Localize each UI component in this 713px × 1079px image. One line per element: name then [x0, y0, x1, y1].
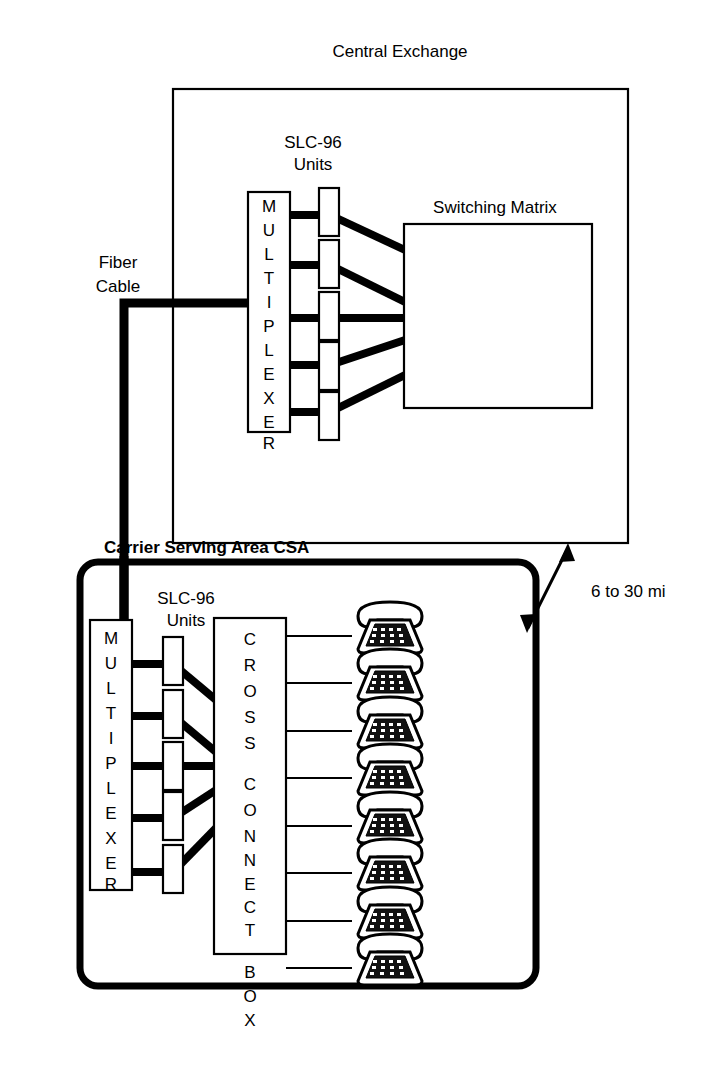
slc96-unit: [163, 792, 183, 840]
csa-box: [80, 562, 536, 986]
slc96-unit: [163, 690, 183, 738]
telephone-set: [358, 602, 422, 985]
central-slc96-units: [319, 188, 339, 440]
switching-matrix-box: [404, 224, 592, 408]
slc96-unit: [163, 637, 183, 685]
switching-matrix-label: Switching Matrix: [433, 198, 557, 217]
csa-slc96-label-line2: Units: [167, 611, 206, 630]
svg-text:C: C: [244, 630, 256, 649]
svg-text:B: B: [244, 963, 255, 982]
central-slc96-label-line2: Units: [294, 155, 333, 174]
svg-text:C: C: [244, 898, 256, 917]
svg-text:R: R: [105, 875, 117, 894]
svg-text:O: O: [243, 682, 256, 701]
csa-slc96-label-line1: SLC-96: [157, 589, 215, 608]
distance-label: 6 to 30 mi: [591, 582, 666, 601]
slc96-unit: [319, 392, 339, 440]
cross-connect-box-label: C R O S S C O N N E C T B O X: [243, 630, 256, 1030]
svg-text:T: T: [245, 921, 255, 940]
svg-text:R: R: [263, 434, 275, 453]
svg-text:X: X: [263, 389, 274, 408]
svg-text:L: L: [264, 245, 273, 264]
telephone-icon: [358, 839, 422, 890]
svg-text:T: T: [264, 269, 274, 288]
telephone-icon: [358, 934, 422, 985]
slc96-unit: [319, 292, 339, 340]
fiber-cable-label-line2: Cable: [96, 277, 140, 296]
slc96-unit: [319, 240, 339, 288]
svg-text:P: P: [263, 317, 274, 336]
telephone-icon: [358, 887, 422, 938]
telephone-icon: [358, 792, 422, 843]
svg-text:U: U: [263, 221, 275, 240]
svg-text:E: E: [263, 413, 274, 432]
subscriber-lines: [286, 636, 352, 968]
svg-text:E: E: [244, 875, 255, 894]
svg-text:T: T: [106, 704, 116, 723]
slc96-unit: [319, 188, 339, 236]
svg-text:E: E: [105, 854, 116, 873]
central-exchange-title: Central Exchange: [332, 42, 467, 61]
svg-text:R: R: [244, 656, 256, 675]
svg-text:E: E: [105, 804, 116, 823]
svg-text:X: X: [244, 1011, 255, 1030]
slc96-unit: [163, 742, 183, 790]
telephone-icon: [358, 602, 422, 653]
csa-mux-to-slc-bars: [130, 664, 166, 872]
network-diagram: Central Exchange SLC-96 Units Switching …: [0, 0, 713, 1079]
svg-text:C: C: [244, 775, 256, 794]
csa-multiplexer-label: M U L T I P L E X E R: [104, 629, 118, 894]
slc96-unit: [163, 845, 183, 893]
svg-text:S: S: [244, 734, 255, 753]
svg-text:L: L: [106, 679, 115, 698]
svg-text:X: X: [105, 829, 116, 848]
telephone-icon: [358, 744, 422, 795]
svg-text:S: S: [244, 708, 255, 727]
svg-text:N: N: [244, 827, 256, 846]
svg-text:E: E: [263, 365, 274, 384]
svg-text:U: U: [105, 654, 117, 673]
central-multiplexer-label: M U L T I P L E X E R: [262, 197, 276, 453]
svg-text:L: L: [264, 341, 273, 360]
svg-text:I: I: [109, 729, 114, 748]
telephone-icon: [358, 649, 422, 700]
csa-title: Carrier Serving Area CSA: [104, 538, 309, 557]
telephone-icon: [358, 697, 422, 748]
svg-text:M: M: [262, 197, 276, 216]
svg-text:L: L: [106, 779, 115, 798]
svg-text:O: O: [243, 987, 256, 1006]
svg-text:P: P: [105, 754, 116, 773]
fiber-cable-label-line1: Fiber: [99, 253, 138, 272]
svg-text:O: O: [243, 801, 256, 820]
distance-arrow: [520, 543, 575, 633]
svg-text:N: N: [244, 851, 256, 870]
slc96-unit: [319, 342, 339, 390]
svg-text:M: M: [104, 629, 118, 648]
central-slc96-label-line1: SLC-96: [284, 133, 342, 152]
csa-slc96-units: [163, 637, 183, 893]
svg-text:I: I: [267, 293, 272, 312]
